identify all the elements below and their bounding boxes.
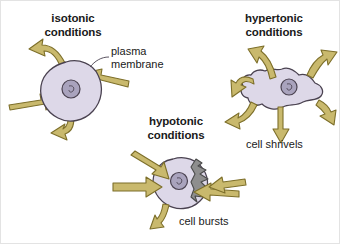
hypotonic-panel-title: hypotonic conditions [127,115,225,142]
plasma-membrane-leader-line [90,57,109,67]
osmosis-diagram-figure: isotonic conditions hypertonic condition… [0,0,340,244]
hypertonic-panel-graphics [225,46,337,143]
hypertonic-water-out-arrow-3 [307,50,337,78]
cell-bursts-caption: cell bursts [179,215,255,228]
hypertonic-panel-title: hypertonic conditions [219,12,329,39]
cell-shrivels-caption: cell shrivels [246,138,328,151]
hypotonic-cell-nucleus [171,173,188,190]
isotonic-panel-title: isotonic conditions [27,12,119,39]
hypotonic-water-out-arrow-1 [150,204,169,229]
hypertonic-cell-nucleus [281,79,297,95]
isotonic-water-out-arrow-1 [29,39,65,66]
hypertonic-water-out-arrow-6 [225,102,257,129]
isotonic-cell-nucleus [62,80,80,98]
plasma-membrane-label: plasma membrane [111,45,193,71]
hypotonic-water-in-arrow-1 [131,151,169,179]
hypertonic-water-out-arrow-4 [316,100,336,125]
